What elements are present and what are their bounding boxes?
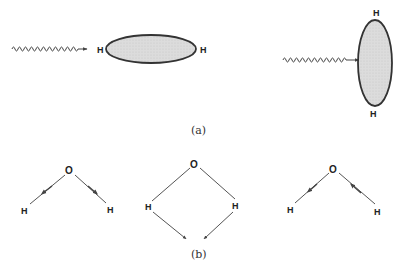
molecule-diagram: H H H H (a) O H H O H H O H H (b) — [0, 0, 401, 269]
atom-h-left: H — [21, 206, 28, 216]
atom-h-right: H — [200, 45, 207, 55]
wavy-arrow-icon — [12, 47, 87, 51]
atom-o: O — [65, 165, 73, 176]
arrow-icon — [205, 212, 233, 238]
arrow-icon — [88, 186, 96, 193]
mode-bend: O H H — [145, 159, 239, 238]
arrow-icon — [352, 185, 361, 193]
atom-h-right: H — [232, 201, 239, 211]
arrow-icon — [153, 212, 185, 238]
atom-h-right: H — [107, 205, 114, 215]
arrow-icon — [309, 184, 317, 191]
wavy-arrow-icon — [283, 58, 359, 62]
caption-a: (a) — [191, 124, 206, 137]
atom-o: O — [190, 159, 198, 170]
atom-o: O — [329, 164, 337, 175]
caption-b: (b) — [191, 248, 207, 261]
atom-h-left: H — [287, 205, 294, 215]
arrow-icon — [43, 186, 52, 193]
atom-h-left: H — [97, 45, 104, 55]
mode-antisymmetric-stretch: O H H — [287, 164, 381, 217]
atom-h-top: H — [373, 8, 380, 18]
panel-a-horizontal: H H — [12, 35, 207, 63]
atom-h-right: H — [374, 207, 381, 217]
h2-molecule-horizontal — [106, 35, 196, 63]
h2-molecule-vertical — [358, 20, 392, 106]
panel-a-vertical: H H — [283, 8, 392, 119]
atom-h-left: H — [145, 202, 152, 212]
atom-h-bottom: H — [370, 109, 377, 119]
mode-symmetric-stretch: O H H — [21, 165, 114, 216]
